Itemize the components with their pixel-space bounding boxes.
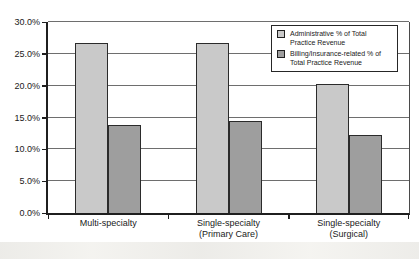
y-axis-tick: [42, 22, 47, 24]
y-axis-label: 5.0%: [0, 175, 40, 187]
legend-swatch-billing-insurance: [277, 50, 285, 58]
y-axis-label: 15.0%: [0, 112, 40, 124]
bar-series1-cat2: [349, 135, 382, 213]
scan-artifact-strip: [0, 242, 419, 259]
y-axis-tick: [42, 149, 47, 151]
bar-series0-cat1: [196, 43, 229, 213]
legend-item-billing-insurance: Billing/Insurance-related % of Total Pra…: [276, 49, 393, 67]
legend-swatch-administrative: [277, 30, 285, 38]
legend-item-administrative: Administrative % of Total Practice Reven…: [276, 29, 393, 47]
figure: Administrative % of Total Practice Reven…: [0, 0, 419, 260]
y-axis-label: 25.0%: [0, 48, 40, 60]
category-label: Single-specialty (Primary Care): [197, 218, 260, 239]
y-axis-tick: [42, 181, 47, 183]
gridline: [48, 21, 409, 22]
y-axis-label: 20.0%: [0, 80, 40, 92]
bar-series1-cat1: [229, 121, 262, 213]
y-axis-label: 0.0%: [0, 207, 40, 219]
y-axis-tick: [42, 213, 47, 215]
x-axis-tick: [168, 215, 170, 219]
bar-series0-cat0: [75, 43, 108, 213]
y-axis-label: 10.0%: [0, 143, 40, 155]
y-axis-label: 30.0%: [0, 16, 40, 28]
bar-series1-cat0: [108, 125, 141, 213]
y-axis-tick: [42, 53, 47, 55]
category-label: Single-specialty (Surgical): [317, 218, 380, 239]
x-axis-tick: [48, 215, 50, 219]
y-axis-tick: [42, 85, 47, 87]
x-axis-tick: [408, 215, 410, 219]
legend-label-administrative: Administrative % of Total Practice Reven…: [290, 29, 367, 47]
x-axis-tick: [288, 215, 290, 219]
bar-series0-cat2: [316, 84, 349, 213]
legend: Administrative % of Total Practice Reven…: [271, 25, 398, 72]
category-label: Multi-specialty: [80, 218, 137, 229]
legend-label-billing-insurance: Billing/Insurance-related % of Total Pra…: [290, 49, 381, 67]
y-axis-tick: [42, 117, 47, 119]
